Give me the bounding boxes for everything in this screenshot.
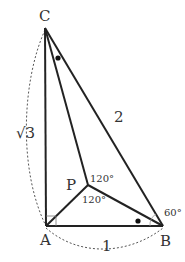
angle-label-abc: 60° [164, 207, 182, 218]
side-label-ab: 1 [102, 237, 112, 255]
angle-label-apb: 120° [82, 194, 106, 205]
point-label-c: C [39, 7, 50, 25]
side-ca [45, 28, 46, 226]
geometry-diagram: C A B P √3 2 1 120° 120° 60° [0, 0, 185, 262]
angle-label-cpb: 120° [90, 173, 114, 184]
side-label-ca: √3 [16, 124, 35, 142]
side-label-cb: 2 [114, 108, 124, 126]
triangle-figure: C A B P √3 2 1 120° 120° 60° [0, 0, 185, 262]
angle-dot-c [55, 55, 60, 60]
segment-pc [45, 28, 88, 185]
point-label-b: B [160, 232, 171, 250]
angle-dot-b [135, 218, 140, 223]
point-label-a: A [39, 231, 51, 249]
point-label-p: P [66, 176, 76, 194]
